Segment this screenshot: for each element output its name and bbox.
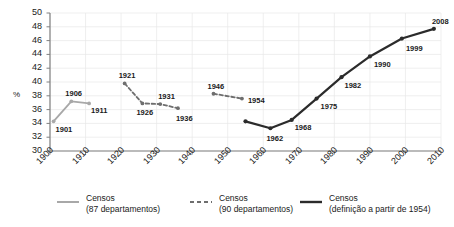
y-tick-label: 44	[26, 48, 42, 58]
y-tick-label: 36	[26, 104, 42, 114]
y-tick-label: 32	[26, 131, 42, 141]
legend-label-censos-90: Censos (90 departamentos)	[219, 193, 293, 215]
point-label-1954: 1954	[248, 96, 265, 105]
legend-label-line2: (87 departamentos)	[86, 204, 160, 215]
y-tick-label: 40	[26, 76, 42, 86]
point-label-1936: 1936	[176, 114, 193, 123]
legend-swatch-solid-light	[57, 194, 79, 206]
y-tick-label: 38	[26, 90, 42, 100]
point-label-1921: 1921	[119, 71, 136, 80]
point-label-1911: 1911	[91, 106, 107, 115]
legend-label-line2: (definição a partir de 1954)	[329, 204, 431, 215]
y-tick-label: 48	[26, 21, 42, 31]
point-label-1968: 1968	[295, 123, 312, 132]
point-label-1946: 1946	[208, 82, 225, 91]
legend-item-censos-1954[interactable]: Censos (definição a partir de 1954)	[300, 193, 431, 215]
y-tick-label: 42	[26, 62, 42, 72]
legend-swatch-solid-dark	[300, 194, 322, 206]
point-label-1975: 1975	[321, 102, 338, 111]
point-label-1906: 1906	[65, 89, 82, 98]
legend-label-line1: Censos	[219, 193, 248, 203]
legend-label-censos-87: Censos (87 departamentos)	[86, 193, 160, 215]
point-label-2008: 2008	[432, 17, 449, 26]
series-censos-87	[52, 99, 91, 123]
legend-label-line1: Censos	[86, 193, 115, 203]
legend-item-censos-90[interactable]: Censos (90 departamentos)	[190, 193, 293, 215]
y-tick-label: 50	[26, 7, 42, 17]
legend-label-censos-1954: Censos (definição a partir de 1954)	[329, 193, 431, 215]
legend-swatch-dashed	[190, 194, 212, 206]
legend-label-line1: Censos	[329, 193, 358, 203]
series-censos-1954	[243, 27, 436, 131]
point-label-1999: 1999	[406, 44, 423, 53]
gridlines	[50, 13, 441, 151]
point-label-1982: 1982	[344, 81, 361, 90]
chart-legend: Censos (87 departamentos) Censos (90 dep…	[0, 186, 454, 227]
legend-label-line2: (90 departamentos)	[219, 204, 293, 215]
point-label-1990: 1990	[374, 60, 391, 69]
y-tick-label: 34	[26, 117, 42, 127]
chart-figure: % 3032343638404244464850 190019101920193…	[0, 0, 454, 227]
point-label-1931: 1931	[158, 92, 175, 101]
point-label-1901: 1901	[56, 125, 73, 134]
point-label-1926: 1926	[136, 108, 153, 117]
legend-item-censos-87[interactable]: Censos (87 departamentos)	[57, 193, 160, 215]
y-axis-unit-label: %	[13, 90, 20, 99]
point-label-1962: 1962	[266, 134, 283, 143]
y-tick-label: 46	[26, 35, 42, 45]
